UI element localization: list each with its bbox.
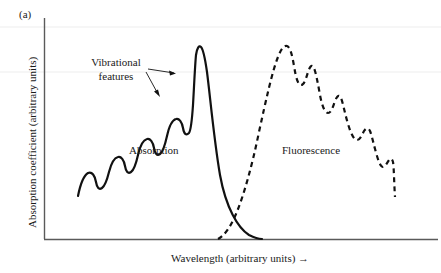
absorption-curve-label: Absorption: [129, 144, 179, 156]
annotation-arrow-upper-head: [169, 71, 176, 76]
spectra-plot: [0, 0, 441, 273]
annotation-arrow-lower-head: [154, 90, 160, 98]
fluorescence-curve: [218, 46, 395, 239]
vibrational-features-annotation: Vibrational features: [80, 55, 152, 83]
x-axis-label: Wavelength (arbitrary units) →: [171, 252, 309, 264]
absorption-fluorescence-figure: (a) Absorption coefficient (arbitrary un…: [0, 0, 441, 273]
y-axis-label: Absorption coefficient (arbitrary units): [26, 57, 38, 228]
vibrational-features-line1: Vibrational: [80, 55, 152, 69]
vibrational-features-line2: features: [80, 69, 152, 83]
panel-label: (a): [19, 8, 31, 20]
fluorescence-curve-label: Fluorescence: [282, 144, 340, 156]
